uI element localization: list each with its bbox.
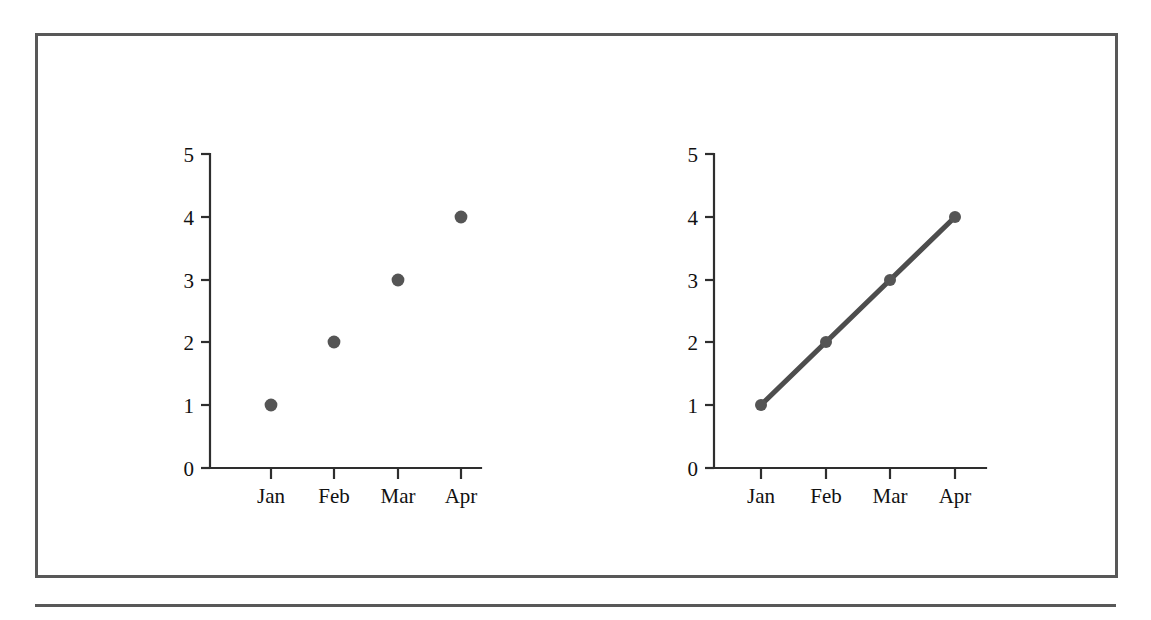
data-point-apr [455,211,468,224]
y-tick-label-4: 4 [184,206,195,230]
x-tick-label-mar: Mar [381,484,416,508]
line-chart-svg: 0 1 2 3 4 5 Jan Feb Mar Apr [558,36,1078,575]
horizontal-rule [35,604,1116,607]
y-tick-label-4: 4 [688,206,699,230]
x-tick-label-apr: Apr [445,484,478,508]
data-point-jan [265,399,278,412]
x-tick-label-apr: Apr [939,484,972,508]
x-tick-label-jan: Jan [257,484,285,508]
data-point-apr [949,211,961,223]
y-tick-label-0: 0 [184,457,195,481]
scatter-chart-svg: 0 1 2 3 4 5 Jan Feb Mar Apr [38,36,558,575]
y-tick-label-5: 5 [184,143,195,167]
series-polyline [761,217,955,405]
y-tick-label-1: 1 [688,394,699,418]
y-tick-label-3: 3 [688,269,699,293]
x-tick-label-feb: Feb [810,484,842,508]
y-tick-label-5: 5 [688,143,699,167]
data-point-feb [328,336,341,349]
y-tick-label-2: 2 [184,331,195,355]
data-point-mar [392,274,405,287]
y-tick-label-1: 1 [184,394,195,418]
x-tick-label-jan: Jan [747,484,775,508]
data-point-feb [820,336,832,348]
data-point-mar [884,274,896,286]
y-tick-label-0: 0 [688,457,699,481]
figure-frame: 0 1 2 3 4 5 Jan Feb Mar Apr [35,33,1118,578]
x-tick-label-mar: Mar [873,484,908,508]
y-tick-label-2: 2 [688,331,699,355]
x-tick-label-feb: Feb [318,484,350,508]
page-canvas: 0 1 2 3 4 5 Jan Feb Mar Apr [0,0,1151,620]
y-tick-label-3: 3 [184,269,195,293]
line-chart: 0 1 2 3 4 5 Jan Feb Mar Apr [558,36,1078,575]
data-point-jan [755,399,767,411]
scatter-chart: 0 1 2 3 4 5 Jan Feb Mar Apr [38,36,558,575]
